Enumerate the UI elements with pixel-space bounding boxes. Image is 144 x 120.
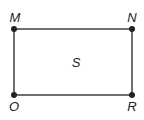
region-label-s: S [72, 55, 81, 70]
label-r: R [127, 99, 136, 114]
point-n [129, 26, 135, 32]
label-m: M [10, 10, 21, 25]
label-o: O [9, 99, 19, 114]
rectangle-diagram: M N R O S [0, 0, 144, 120]
point-o [11, 92, 17, 98]
point-m [11, 26, 17, 32]
point-r [129, 92, 135, 98]
label-n: N [127, 10, 137, 25]
